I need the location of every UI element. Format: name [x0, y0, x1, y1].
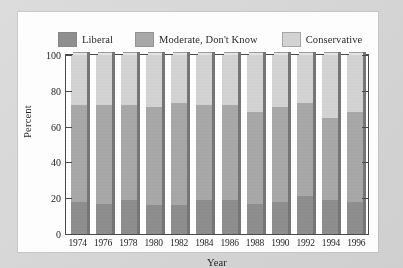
x-axis-tick-label: 1992 — [293, 238, 318, 252]
y-axis-tick-label: 20 — [51, 193, 61, 204]
y-axis-tick-label: 80 — [51, 85, 61, 96]
bar-segment-conservative[interactable] — [71, 55, 87, 105]
x-axis-title: Year — [65, 257, 369, 268]
y-axis-tick-right — [362, 234, 368, 235]
bar-slot — [267, 55, 292, 234]
x-axis-tick-label: 1996 — [344, 238, 369, 252]
bar-slot — [116, 55, 141, 234]
bar-segment-liberal[interactable] — [146, 205, 162, 234]
y-axis-title: Percent — [22, 105, 33, 138]
bar-slot — [242, 55, 267, 234]
bar-side-shadow — [263, 52, 266, 234]
y-axis-tick — [66, 162, 72, 163]
bar-segment-liberal[interactable] — [171, 205, 187, 234]
bar-segment-moderate[interactable] — [96, 105, 112, 203]
y-axis-tick-right — [362, 162, 368, 163]
stacked-bar[interactable] — [196, 55, 212, 234]
legend-swatch-liberal — [58, 32, 77, 47]
x-axis-tick-label: 1988 — [242, 238, 267, 252]
bar-segment-liberal[interactable] — [247, 204, 263, 234]
bar-slot — [167, 55, 192, 234]
bar-segment-liberal[interactable] — [297, 196, 313, 234]
bar-segment-liberal[interactable] — [272, 202, 288, 234]
bar-segment-conservative[interactable] — [171, 55, 187, 103]
y-axis-tick — [66, 127, 72, 128]
bar-segment-moderate[interactable] — [247, 112, 263, 203]
stacked-bar[interactable] — [71, 55, 87, 234]
stacked-bar[interactable] — [96, 55, 112, 234]
plot-frame: 100806040200 — [65, 54, 369, 235]
bar-slot — [142, 55, 167, 234]
y-axis-tick — [66, 198, 72, 199]
stacked-bar[interactable] — [347, 55, 363, 234]
bar-segment-liberal[interactable] — [121, 200, 137, 234]
bar-slot — [66, 55, 91, 234]
bar-slot — [343, 55, 368, 234]
legend-swatch-moderate — [135, 32, 154, 47]
stacked-bar[interactable] — [272, 55, 288, 234]
bar-segment-moderate[interactable] — [297, 103, 313, 196]
bar-side-shadow — [187, 52, 190, 234]
bar-segment-moderate[interactable] — [322, 118, 338, 200]
stacked-bar[interactable] — [121, 55, 137, 234]
bar-slot — [192, 55, 217, 234]
y-axis-tick-label: 0 — [56, 229, 61, 240]
y-axis-tick-label: 40 — [51, 157, 61, 168]
bar-segment-conservative[interactable] — [272, 55, 288, 107]
x-axis-tick-label: 1984 — [192, 238, 217, 252]
bar-side-shadow — [87, 52, 90, 234]
y-axis-tick-right — [362, 55, 368, 56]
plot-area: 100806040200 — [66, 55, 368, 234]
bar-segment-liberal[interactable] — [222, 200, 238, 234]
bar-segment-moderate[interactable] — [196, 105, 212, 200]
bar-segment-liberal[interactable] — [71, 202, 87, 234]
bar-segment-moderate[interactable] — [272, 107, 288, 202]
x-axis-tick-label: 1982 — [166, 238, 191, 252]
bar-side-shadow — [313, 52, 316, 234]
x-axis-tick-labels: 1974197619781980198219841986198819901992… — [65, 238, 369, 252]
bar-segment-conservative[interactable] — [247, 55, 263, 112]
bar-segment-conservative[interactable] — [196, 55, 212, 105]
bar-segment-moderate[interactable] — [146, 107, 162, 205]
stacked-bar[interactable] — [297, 55, 313, 234]
legend-entry-conservative: Conservative — [282, 32, 363, 47]
bar-slot — [217, 55, 242, 234]
x-axis-tick-label: 1986 — [217, 238, 242, 252]
chart-figure-card: Liberal Moderate, Don't Know Conservativ… — [18, 12, 378, 252]
bar-segment-moderate[interactable] — [222, 105, 238, 200]
bar-side-shadow — [112, 52, 115, 234]
stacked-bar[interactable] — [222, 55, 238, 234]
stacked-bar[interactable] — [322, 55, 338, 234]
bar-segment-conservative[interactable] — [96, 55, 112, 105]
bar-segment-moderate[interactable] — [121, 105, 137, 200]
bar-segment-liberal[interactable] — [347, 202, 363, 234]
bar-segment-conservative[interactable] — [222, 55, 238, 105]
y-axis-tick-right — [362, 91, 368, 92]
bar-segment-moderate[interactable] — [71, 105, 87, 202]
stacked-bar[interactable] — [247, 55, 263, 234]
bar-series-group — [66, 55, 368, 234]
bar-segment-conservative[interactable] — [297, 55, 313, 103]
stacked-bar[interactable] — [146, 55, 162, 234]
bar-segment-conservative[interactable] — [322, 55, 338, 118]
bar-segment-liberal[interactable] — [96, 204, 112, 234]
bar-segment-conservative[interactable] — [121, 55, 137, 105]
bar-side-shadow — [288, 52, 291, 234]
x-axis-tick-label: 1990 — [268, 238, 293, 252]
y-axis-tick-right — [362, 127, 368, 128]
bar-segment-conservative[interactable] — [146, 55, 162, 107]
legend-entry-moderate: Moderate, Don't Know — [135, 32, 258, 47]
bar-segment-moderate[interactable] — [171, 103, 187, 205]
legend-entry-liberal: Liberal — [58, 32, 113, 47]
bar-segment-liberal[interactable] — [196, 200, 212, 234]
bar-segment-liberal[interactable] — [322, 200, 338, 234]
legend-label-conservative: Conservative — [306, 34, 363, 45]
bar-segment-conservative[interactable] — [347, 55, 363, 112]
stacked-bar[interactable] — [171, 55, 187, 234]
bar-side-shadow — [137, 52, 140, 234]
y-axis-tick — [66, 55, 72, 56]
legend-label-moderate: Moderate, Don't Know — [159, 34, 258, 45]
bar-slot — [91, 55, 116, 234]
x-axis-tick-label: 1974 — [65, 238, 90, 252]
legend-label-liberal: Liberal — [82, 34, 113, 45]
